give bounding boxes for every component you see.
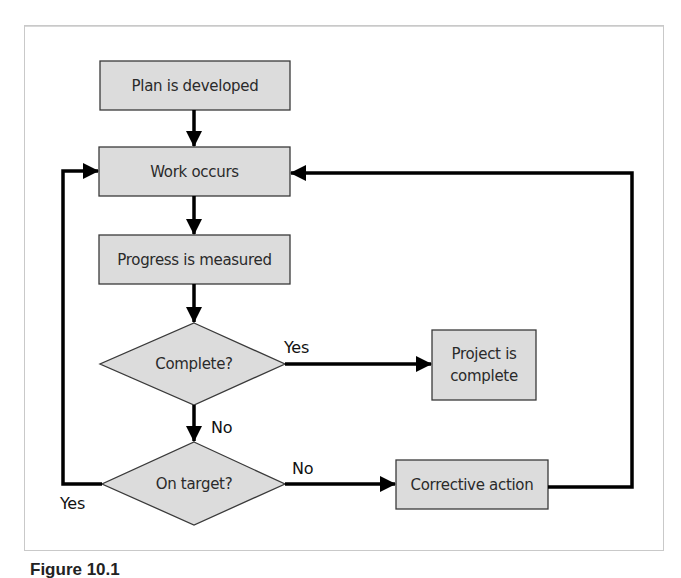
figure-caption: Figure 10.1 [30, 560, 120, 578]
edge-label-complete-yes: Yes [284, 338, 309, 357]
node-work-label: Work occurs [99, 147, 290, 196]
node-on-target-label: On target? [130, 470, 258, 498]
edge-on-target-yes-loop [63, 171, 102, 484]
caption-label: Figure 10.1 [30, 560, 120, 578]
node-corrective-label: Corrective action [396, 460, 548, 509]
edge-label-on-target-no: No [292, 459, 313, 478]
node-plan-label: Plan is developed [100, 61, 290, 110]
node-complete-label: Complete? [130, 350, 258, 378]
node-progress-label: Progress is measured [99, 235, 290, 284]
edge-label-on-target-yes: Yes [60, 494, 85, 513]
edge-label-complete-no: No [211, 418, 232, 437]
node-project-complete-label: Project is complete [440, 330, 528, 400]
